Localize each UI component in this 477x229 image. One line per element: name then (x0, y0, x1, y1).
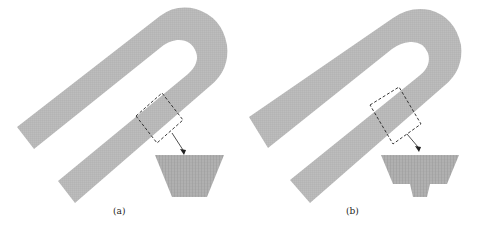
arrow-line-a (172, 133, 183, 150)
panel-a (17, 8, 227, 203)
inset-trapezoid-a (155, 155, 224, 197)
arrow-line-b (407, 134, 418, 147)
figure-canvas (0, 0, 477, 229)
panel-b (249, 9, 461, 203)
panel-label-a: (a) (113, 206, 125, 216)
arrow-head-a (180, 149, 186, 155)
inset-trapezoid-b (381, 155, 459, 184)
arrow-head-b (415, 146, 421, 152)
panel-label-b: (b) (346, 206, 359, 216)
inset-stem-b (410, 184, 430, 197)
